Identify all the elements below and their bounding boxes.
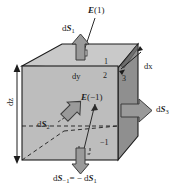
face-index-front-label: 2 (103, 72, 107, 80)
area-top-sub: 1 (72, 27, 75, 34)
area-left-sub: 2 (47, 123, 50, 130)
field-inner-arg: (−1) (87, 92, 103, 102)
area-bottom-rhs-sub: 1 (94, 177, 97, 184)
face-index-bottom-label: −1 (100, 139, 109, 147)
face-index-top-label: 1 (104, 58, 108, 66)
dim-x-label: dx (144, 62, 153, 71)
field-top-label: E(1) (88, 6, 105, 15)
area-right-sub: 3 (166, 108, 169, 115)
area-top-label: dS1 (62, 24, 75, 34)
area-right-label: dS3 (156, 105, 169, 115)
field-inner-label: E(−1) (81, 93, 103, 102)
dz-dimension-line (14, 64, 21, 164)
area-bottom-relation: = (69, 173, 74, 183)
dim-z-label: dz (6, 98, 15, 106)
dim-y-label: dy (72, 72, 81, 81)
area-bottom-equation-label: dS−1= − dS1 (53, 174, 97, 184)
field-top-arg: (1) (94, 5, 105, 15)
area-left-label: dS2 (37, 120, 50, 130)
differential-cube-figure: E(1) dS1 dx 1 dy 2 3 dz E(−1) dS3 dS2 −1… (0, 0, 179, 194)
face-index-right-label: 3 (122, 75, 126, 83)
